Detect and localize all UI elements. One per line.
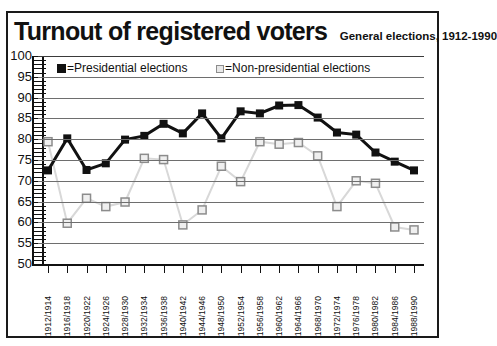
gridline-60	[38, 222, 424, 223]
x-tick	[202, 266, 203, 273]
x-tick	[318, 266, 319, 273]
x-tick-label: 1976/1978	[351, 296, 361, 336]
data-point	[179, 129, 187, 137]
data-point	[352, 131, 360, 139]
x-tick	[125, 266, 126, 273]
page-title: Turnout of registered voters	[14, 16, 327, 46]
gridline-100	[38, 56, 424, 57]
x-tick-label: 1960/1962	[274, 296, 284, 336]
gridline-75	[38, 160, 424, 161]
y-tick-label-70: 70	[2, 176, 32, 186]
open-square-icon	[216, 65, 224, 73]
data-point	[198, 206, 206, 214]
x-axis	[32, 264, 424, 272]
y-tick-label-100: 100	[2, 51, 32, 61]
y-tick-label-50: 50	[2, 259, 32, 269]
data-point	[333, 129, 341, 137]
x-tick-label: 1920/1922	[82, 296, 92, 336]
x-tick	[395, 266, 396, 273]
gridline-55	[38, 243, 424, 244]
x-tick-label: 1916/1918	[62, 296, 72, 336]
plot-area	[38, 56, 424, 264]
y-tick-label-90: 90	[2, 93, 32, 103]
gridline-80	[38, 139, 424, 140]
x-tick-label: 1956/1958	[255, 296, 265, 336]
x-tick-label: 1948/1950	[216, 296, 226, 336]
x-tick	[337, 266, 338, 273]
data-point	[160, 120, 168, 128]
x-tick-label: 1988/1990	[409, 296, 419, 336]
data-point	[294, 101, 302, 109]
data-point	[314, 152, 322, 160]
data-point	[140, 154, 148, 162]
x-tick-label: 1924/1926	[101, 296, 111, 336]
x-tick-label: 1964/1966	[293, 296, 303, 336]
legend-entry-presidential: =Presidential elections	[57, 61, 187, 75]
x-tick	[241, 266, 242, 273]
chart-header: Turnout of registered voters General ele…	[14, 16, 434, 46]
data-point	[102, 203, 110, 211]
x-tick-label: 1944/1946	[197, 296, 207, 336]
x-tick	[48, 266, 49, 273]
data-point	[256, 109, 264, 117]
x-tick	[221, 266, 222, 273]
x-tick-label: 1936/1938	[159, 296, 169, 336]
data-point	[371, 149, 379, 157]
gridline-65	[38, 202, 424, 203]
gridline-85	[38, 118, 424, 119]
x-tick-label: 1972/1974	[332, 296, 342, 336]
x-tick-label: 1952/1954	[236, 296, 246, 336]
x-tick	[298, 266, 299, 273]
x-axis-labels: 1912/19141916/19181920/19221924/19261928…	[32, 274, 424, 336]
x-tick	[144, 266, 145, 273]
data-point	[391, 158, 399, 166]
data-point	[275, 102, 283, 110]
x-tick-label: 1968/1970	[313, 296, 323, 336]
x-tick	[106, 266, 107, 273]
legend-label-presidential: =Presidential elections	[67, 61, 187, 75]
y-tick-label-60: 60	[2, 217, 32, 227]
y-tick-label-75: 75	[2, 155, 32, 165]
y-tick-label-55: 55	[2, 238, 32, 248]
x-tick	[183, 266, 184, 273]
series-line-nonpresidential	[48, 142, 414, 230]
chart-legend: =Presidential elections =Non-presidentia…	[57, 60, 370, 75]
y-tick-label-85: 85	[2, 113, 32, 123]
y-tick-label-80: 80	[2, 134, 32, 144]
x-tick-label: 1912/1914	[43, 296, 53, 336]
data-point	[237, 107, 245, 115]
data-point	[44, 166, 52, 174]
x-tick	[375, 266, 376, 273]
legend-entry-nonpresidential: =Non-presidential elections	[216, 61, 370, 75]
x-tick	[356, 266, 357, 273]
x-tick	[260, 266, 261, 273]
x-tick	[279, 266, 280, 273]
gridline-70	[38, 181, 424, 182]
y-tick-label-95: 95	[2, 72, 32, 82]
chart-subtitle: General elections, 1912-1990	[340, 21, 497, 51]
x-tick	[414, 266, 415, 273]
x-tick-label: 1928/1930	[120, 296, 130, 336]
gridline-90	[38, 98, 424, 99]
x-tick-label: 1980/1982	[370, 296, 380, 336]
data-point	[410, 166, 418, 174]
gridline-95	[38, 77, 424, 78]
legend-label-nonpresidential: =Non-presidential elections	[225, 61, 370, 75]
x-tick	[87, 266, 88, 273]
filled-square-icon	[57, 64, 66, 73]
x-tick-label: 1984/1986	[390, 296, 400, 336]
plot-canvas	[38, 56, 424, 264]
data-point	[333, 203, 341, 211]
data-point	[410, 226, 418, 234]
x-tick	[164, 266, 165, 273]
x-tick-label: 1940/1942	[178, 296, 188, 336]
data-point	[217, 162, 225, 170]
data-point	[275, 140, 283, 148]
data-point	[198, 109, 206, 117]
data-point	[391, 223, 399, 231]
data-point	[83, 166, 91, 174]
x-tick-label: 1932/1934	[139, 296, 149, 336]
x-tick	[67, 266, 68, 273]
y-tick-label-65: 65	[2, 197, 32, 207]
